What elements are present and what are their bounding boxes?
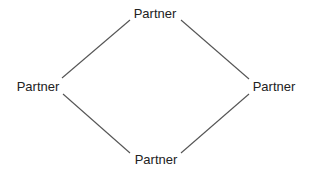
node-top: Partner (134, 7, 177, 20)
node-right: Partner (253, 80, 296, 93)
edge-top-right (181, 20, 249, 79)
edge-right-bottom (181, 94, 249, 153)
partner-network-diagram: Partner Partner Partner Partner (0, 0, 310, 173)
node-left: Partner (17, 80, 60, 93)
node-bottom: Partner (135, 153, 178, 166)
edge-top-left (62, 20, 130, 78)
edge-left-bottom (63, 94, 130, 153)
